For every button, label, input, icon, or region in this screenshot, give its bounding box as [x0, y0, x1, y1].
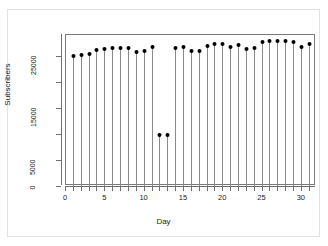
- data-point: [174, 46, 178, 50]
- data-stem: [246, 49, 247, 186]
- x-tick: [175, 187, 176, 191]
- data-point: [95, 48, 99, 52]
- data-point: [71, 54, 75, 58]
- x-tick: [238, 187, 239, 191]
- data-point: [284, 39, 288, 43]
- x-axis-title: Day: [8, 217, 319, 226]
- data-point: [252, 46, 256, 50]
- x-tick: [277, 187, 278, 191]
- y-tick-label: 25000: [30, 55, 37, 74]
- y-tick-label: 0: [30, 186, 37, 190]
- y-tick: [56, 108, 61, 109]
- data-point: [221, 42, 225, 46]
- x-tick: [96, 187, 97, 191]
- chart-page: 050001500025000 051015202530 Subscribers…: [0, 0, 328, 246]
- data-stem: [214, 44, 215, 186]
- y-tick-label: 5000: [30, 160, 37, 176]
- y-tick: [56, 56, 61, 57]
- data-stem: [285, 41, 286, 186]
- data-point: [134, 50, 138, 54]
- x-tick: [254, 187, 255, 191]
- x-tick: [191, 187, 192, 191]
- data-point: [87, 52, 91, 56]
- x-tick: [207, 187, 208, 191]
- data-stem: [167, 135, 168, 186]
- data-point: [142, 49, 146, 53]
- data-point: [181, 45, 185, 49]
- data-stem: [293, 42, 294, 186]
- data-point: [126, 46, 130, 50]
- x-tick: [65, 187, 66, 191]
- y-tick: [56, 186, 61, 187]
- data-stem: [175, 48, 176, 186]
- data-point: [244, 47, 248, 51]
- x-tick-label: 15: [179, 193, 187, 202]
- data-point: [276, 39, 280, 43]
- data-stem: [230, 47, 231, 187]
- x-tick: [81, 187, 82, 191]
- x-tick-label: 10: [139, 193, 147, 202]
- data-point: [307, 42, 311, 46]
- y-tick: [56, 160, 61, 161]
- data-stem: [207, 46, 208, 186]
- data-point: [260, 40, 264, 44]
- data-stem: [73, 56, 74, 186]
- x-tick: [136, 187, 137, 191]
- data-point: [299, 45, 303, 49]
- data-point: [205, 44, 209, 48]
- y-tick: [56, 82, 61, 83]
- data-stem: [238, 45, 239, 186]
- x-tick: [183, 187, 184, 191]
- x-tick: [199, 187, 200, 191]
- data-point: [197, 49, 201, 53]
- x-tick: [214, 187, 215, 191]
- data-point: [119, 46, 123, 50]
- figure-card: 050001500025000 051015202530 Subscribers…: [7, 9, 320, 237]
- data-stem: [191, 51, 192, 186]
- data-stem: [104, 49, 105, 187]
- y-axis-title: Subscribers: [3, 63, 12, 105]
- x-tick: [112, 187, 113, 191]
- x-tick: [167, 187, 168, 191]
- data-stem: [222, 44, 223, 186]
- x-tick-label: 20: [218, 193, 226, 202]
- x-tick-label: 0: [63, 193, 67, 202]
- data-stem: [89, 54, 90, 186]
- data-stem: [136, 52, 137, 186]
- data-point: [229, 45, 233, 49]
- data-point: [292, 40, 296, 44]
- data-stem: [112, 48, 113, 186]
- data-stem: [81, 55, 82, 186]
- x-tick: [152, 187, 153, 191]
- data-stem: [309, 44, 310, 186]
- x-tick: [309, 187, 310, 191]
- data-stem: [199, 51, 200, 186]
- y-tick: [56, 134, 61, 135]
- x-tick: [293, 187, 294, 191]
- x-tick: [262, 187, 263, 191]
- data-point: [268, 39, 272, 43]
- x-tick: [222, 187, 223, 191]
- data-point: [189, 49, 193, 53]
- data-stem: [128, 48, 129, 186]
- data-point: [79, 53, 83, 57]
- data-point: [158, 133, 162, 137]
- x-tick: [285, 187, 286, 191]
- data-point: [213, 42, 217, 46]
- data-point: [103, 47, 107, 51]
- x-tick: [301, 187, 302, 191]
- data-stem: [262, 42, 263, 186]
- data-stem: [144, 51, 145, 186]
- data-stem: [301, 47, 302, 187]
- y-tick-label: 15000: [30, 107, 37, 126]
- data-point: [150, 45, 154, 49]
- x-tick-label: 5: [102, 193, 106, 202]
- data-stem: [183, 47, 184, 186]
- x-tick: [89, 187, 90, 191]
- data-stem: [254, 48, 255, 187]
- data-stem: [96, 50, 97, 186]
- data-stem: [120, 48, 121, 187]
- data-point: [166, 133, 170, 137]
- x-tick: [120, 187, 121, 191]
- x-tick: [104, 187, 105, 191]
